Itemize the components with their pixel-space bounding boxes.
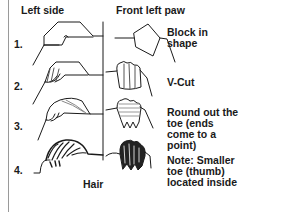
left-side-step-3-icon <box>38 98 103 140</box>
front-paw-step-1-icon <box>115 24 175 62</box>
front-paw-step-3-icon <box>106 99 153 128</box>
left-side-step-2-icon <box>33 62 103 104</box>
front-paw-step-4-icon <box>106 140 151 170</box>
left-side-step-1-icon <box>33 22 103 65</box>
paw-diagram <box>0 0 303 212</box>
left-side-step-4-icon <box>34 140 103 173</box>
front-paw-step-2-icon <box>106 62 152 97</box>
